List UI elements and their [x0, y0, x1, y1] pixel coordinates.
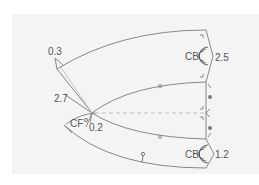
- cf-marker: [84, 118, 87, 121]
- grainline: [142, 156, 143, 162]
- grainline-marker: [141, 152, 144, 155]
- label-center-front: CF: [70, 118, 83, 129]
- top-piece-upper-edge: [57, 30, 206, 69]
- corner-mark: [200, 74, 203, 77]
- tick-mark: [208, 133, 211, 137]
- label-top-center-back-measure: 2.5: [215, 52, 229, 63]
- label-top-left-measure: 0.3: [48, 46, 62, 57]
- label-top-center-back: CB: [185, 51, 199, 62]
- cb-notch: [206, 109, 210, 117]
- fold-symbol-top: [199, 47, 208, 65]
- label-bottom-center-back: CB: [185, 149, 199, 160]
- fold-symbol-bottom: [199, 145, 208, 163]
- bottom-piece-lower-edge: [64, 125, 206, 168]
- corner-mark: [200, 35, 203, 38]
- label-left-measure: 2.7: [54, 93, 68, 104]
- corner-mark: [200, 106, 203, 109]
- label-center-front-measure: 0.2: [89, 122, 103, 133]
- bottom-piece-cb-edge: [206, 139, 214, 168]
- pattern-drawing: 0.3 2.7 CF 0.2 CB 2.5 CB 1.2: [0, 0, 259, 185]
- measure-line-2.7: [64, 94, 92, 113]
- diagram-canvas: 0.3 2.7 CF 0.2 CB 2.5 CB 1.2: [0, 0, 259, 185]
- top-piece-cb-edge: [206, 30, 213, 82]
- bullet-marker: [208, 126, 212, 130]
- guide-line: [60, 66, 92, 113]
- bullet-marker: [208, 95, 212, 99]
- tick-mark: [208, 84, 211, 88]
- label-bottom-center-back-measure: 1.2: [215, 149, 229, 160]
- top-piece-lower-edge: [92, 82, 206, 113]
- middle-piece-lower-edge: [92, 113, 206, 139]
- corner-mark: [200, 117, 203, 120]
